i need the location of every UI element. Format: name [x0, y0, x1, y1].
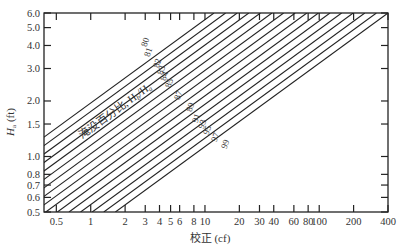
curve-label: 85: [163, 77, 175, 89]
y-tick-label: 3.0: [27, 63, 40, 74]
submergence-line: [0, 13, 272, 212]
curve-label: 81: [142, 46, 154, 58]
submergence-line: [46, 13, 319, 212]
submergence-lines: [0, 13, 388, 212]
submergence-line: [57, 13, 330, 212]
x-axis-title: 校正 (cf): [190, 231, 231, 245]
submergence-line: [115, 13, 388, 212]
submergence-line: [23, 13, 296, 212]
x-tick-label: 6: [177, 216, 182, 227]
y-tick-label: 0.6: [27, 192, 40, 203]
x-tick-label: 60: [289, 216, 300, 227]
x-tick-label: 5: [168, 216, 173, 227]
y-tick-label: 2.0: [27, 95, 40, 106]
x-tick-label: 30: [254, 216, 265, 227]
y-tick-label: 5.0: [27, 22, 40, 33]
x-tick-label: 1: [88, 216, 93, 227]
y-tick-label: 1.5: [27, 119, 40, 130]
x-tick-label: 400: [380, 216, 396, 227]
y-tick-label: 6.0: [27, 8, 40, 19]
y-tick-label: 0.7: [27, 180, 40, 191]
curve-label: 87: [172, 89, 184, 101]
y-tick-label: 0.5: [27, 207, 40, 218]
submergence-chart: 0.50.60.70.81.01.52.03.04.05.06.0 0.5123…: [0, 0, 403, 248]
x-tick-label: 40: [269, 216, 280, 227]
x-tick-label: 4: [157, 216, 163, 227]
y-tick-label: 0.8: [27, 169, 40, 180]
x-tick-label: 100: [311, 216, 327, 227]
curve-label: 97: [209, 131, 221, 143]
x-tick-label: 0.5: [50, 216, 63, 227]
x-tick-label: 8: [191, 216, 196, 227]
x-tick-label: 20: [234, 216, 245, 227]
x-tick-label: 200: [346, 216, 362, 227]
x-tick-label: 10: [200, 216, 211, 227]
y-tick-label: 1.0: [27, 151, 40, 162]
y-tick-label: 4.0: [27, 40, 40, 51]
x-tick-label: 2: [122, 216, 127, 227]
curve-label: 89: [184, 101, 196, 113]
x-tick-label: 3: [143, 216, 148, 227]
submergence-line: [34, 13, 307, 212]
curve-label: 80: [139, 36, 151, 48]
y-axis-title: Ha (ft): [4, 108, 18, 137]
curve-label: 99: [219, 138, 231, 150]
submergence-line: [92, 13, 365, 212]
